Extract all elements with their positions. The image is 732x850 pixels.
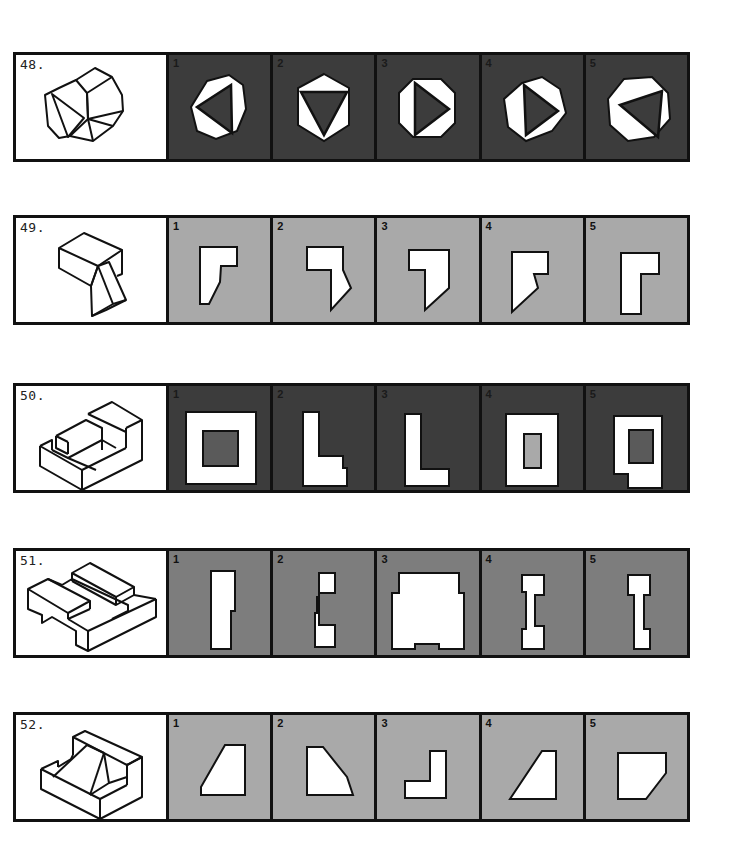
l-shape-notched-icon (273, 386, 376, 494)
question-48: 48. 1 2 (13, 52, 690, 162)
question-stem: 48. (16, 55, 169, 159)
pentagon-chamfer-right-icon (273, 715, 376, 825)
option-3[interactable]: 3 (377, 218, 481, 322)
question-stem: 50. (16, 386, 169, 490)
isometric-drawing-icon (16, 386, 166, 494)
hexagon-triangle-down-icon (273, 55, 376, 159)
question-stem: 49. (16, 218, 169, 322)
i-beam-shape-icon (482, 551, 585, 659)
isometric-drawing-icon (16, 218, 166, 322)
question-52: 52. (13, 712, 690, 822)
trapezoid-left-icon (169, 715, 272, 825)
reversed-seven-shape-icon (377, 218, 480, 322)
option-5[interactable]: 5 (586, 218, 687, 322)
l-shape-icon (377, 386, 480, 494)
option-2[interactable]: 2 (273, 218, 377, 322)
option-2[interactable]: 2 (273, 715, 377, 819)
rect-with-hole-icon (482, 386, 585, 494)
option-2[interactable]: 2 (273, 55, 377, 159)
answer-options: 1 2 3 4 5 (169, 715, 687, 819)
answer-options: 1 2 3 4 5 (169, 218, 687, 322)
question-51: 51. (13, 548, 690, 658)
question-stem: 52. (16, 715, 169, 819)
question-50: 50. (13, 383, 690, 493)
option-4[interactable]: 4 (482, 715, 586, 819)
square-with-hole-icon (169, 386, 272, 494)
right-trapezoid-icon (482, 715, 585, 825)
isometric-drawing-icon (16, 55, 166, 159)
octagon-triangle-right-icon (377, 55, 480, 159)
option-3[interactable]: 3 (377, 715, 481, 819)
option-4[interactable]: 4 (482, 551, 586, 655)
tall-stepped-rect-icon (169, 551, 272, 659)
notched-angled-shape-icon (482, 218, 585, 322)
option-1[interactable]: 1 (169, 386, 273, 490)
pentagon-chamfer-bottom-icon (586, 715, 689, 825)
l-shape-rect-icon (586, 218, 689, 322)
option-4[interactable]: 4 (482, 386, 586, 490)
option-1[interactable]: 1 (169, 218, 273, 322)
wide-stepped-shape-icon (377, 551, 480, 659)
option-5[interactable]: 5 (586, 55, 687, 159)
octagon-triangle-left-icon (586, 55, 689, 159)
option-5[interactable]: 5 (586, 386, 687, 490)
bracket-shape-icon (273, 551, 376, 659)
answer-options: 1 2 3 4 5 (169, 551, 687, 655)
octagon-triangle-left-icon (169, 55, 272, 159)
option-2[interactable]: 2 (273, 551, 377, 655)
hook-shape-icon (273, 218, 376, 322)
heptagon-triangle-right-icon (482, 55, 585, 159)
option-4[interactable]: 4 (482, 55, 586, 159)
option-4[interactable]: 4 (482, 218, 586, 322)
option-1[interactable]: 1 (169, 715, 273, 819)
l-shape-angled-icon (169, 218, 272, 322)
isometric-drawing-icon (16, 715, 166, 825)
option-3[interactable]: 3 (377, 55, 481, 159)
option-1[interactable]: 1 (169, 55, 273, 159)
option-3[interactable]: 3 (377, 386, 481, 490)
option-5[interactable]: 5 (586, 551, 687, 655)
reversed-l-shape-icon (377, 715, 480, 825)
narrow-i-beam-shape-icon (586, 551, 689, 659)
option-2[interactable]: 2 (273, 386, 377, 490)
answer-options: 1 2 3 4 5 (169, 386, 687, 490)
answer-options: 1 2 3 4 (169, 55, 687, 159)
option-1[interactable]: 1 (169, 551, 273, 655)
isometric-drawing-icon (16, 551, 166, 659)
question-49: 49. 1 2 (13, 215, 690, 325)
notched-rect-with-hole-icon (586, 386, 689, 494)
question-stem: 51. (16, 551, 169, 655)
option-5[interactable]: 5 (586, 715, 687, 819)
option-3[interactable]: 3 (377, 551, 481, 655)
